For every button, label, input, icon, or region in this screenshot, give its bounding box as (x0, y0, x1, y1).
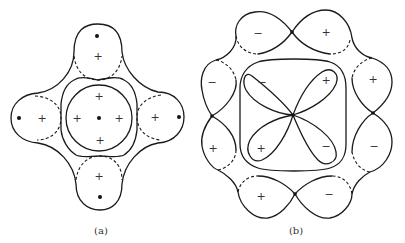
panel-b: − + + − − + + − − + + − (b) (201, 10, 392, 236)
sign-label: + (208, 142, 217, 155)
sign-label: + (150, 111, 159, 124)
nucleus-dot (177, 115, 181, 119)
orbital-diagram: + + + + + + + + (a) (0, 0, 405, 243)
node-dot (210, 114, 214, 118)
nucleus-dot (95, 34, 99, 38)
panel-b-petal-lower-left (248, 115, 293, 161)
panel-b-caption: (b) (289, 225, 303, 236)
node-dot (293, 192, 297, 196)
sign-label: + (94, 170, 103, 183)
panel-b-lobe-dashed (332, 176, 352, 194)
node-dot (291, 113, 294, 116)
panel-b-lobe-inner (258, 176, 332, 194)
panel-a: + + + + + + + + (a) (11, 24, 184, 236)
sign-label: + (256, 142, 265, 155)
panel-b-lobe-dashed (352, 152, 370, 172)
sign-label: + (368, 73, 377, 86)
panel-b-lobe-dashed (330, 40, 350, 54)
sign-label: + (94, 90, 103, 103)
sign-label: + (72, 112, 81, 125)
panel-b-lobe-inner (258, 32, 330, 54)
panel-b-lobe-dashed (218, 150, 236, 170)
panel-b-lobe-dashed (238, 176, 258, 192)
nucleus-dot (98, 195, 102, 199)
sign-label: − (369, 140, 378, 153)
nucleus-dot (97, 116, 101, 120)
sign-label: + (114, 112, 123, 125)
nucleus-dot (17, 116, 21, 120)
sign-label: − (253, 27, 262, 40)
panel-b-lobe-dashed (216, 60, 236, 80)
sign-label: + (321, 26, 330, 39)
sign-label: − (207, 76, 216, 89)
sign-label: + (95, 134, 104, 147)
node-dot (290, 30, 294, 34)
node-dot (371, 111, 375, 115)
sign-label: + (256, 190, 265, 203)
panel-b-lobe-inner (212, 80, 236, 150)
sign-label: + (321, 74, 330, 87)
sign-label: + (93, 50, 102, 63)
sign-label: − (324, 188, 333, 201)
panel-a-caption: (a) (94, 225, 108, 236)
sign-label: − (321, 140, 330, 153)
sign-label: − (257, 76, 266, 89)
panel-b-petal-upper-left (244, 74, 293, 115)
sign-label: + (37, 112, 46, 125)
